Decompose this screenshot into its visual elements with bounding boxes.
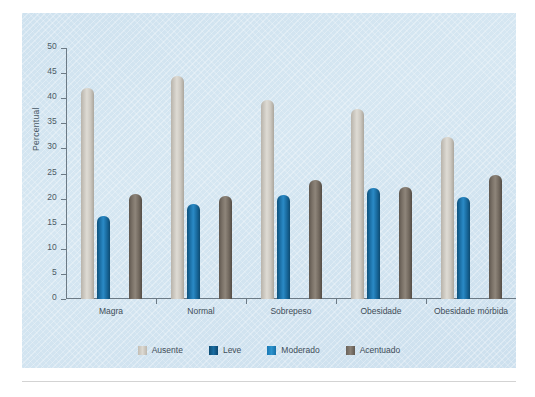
bar [97,216,110,299]
legend-label: Ausente [152,345,183,355]
bar-group: Magra [66,35,156,299]
bar [129,194,142,299]
legend-swatch-icon [267,346,276,355]
bar-group: Obesidade [336,35,426,299]
y-axis-tick-label: 20 [47,192,57,202]
legend-swatch-icon [138,346,147,355]
bar [293,223,306,299]
chart-panel: Percentual 05101520253035404550 MagraNor… [22,13,516,368]
legend-swatch-icon [209,346,218,355]
x-axis-tick [156,299,157,304]
bar [219,196,232,299]
y-axis-tick-label: 5 [52,267,57,277]
bar [113,200,126,299]
legend-item[interactable]: Leve [209,345,241,355]
y-axis-tick-label: 50 [47,41,57,51]
bottom-divider [22,381,516,382]
bar [457,197,470,299]
y-axis-tick-label: 45 [47,66,57,76]
bar [261,100,274,299]
y-axis-tick-label: 40 [47,91,57,101]
bar-group: Normal [156,35,246,299]
legend-label: Moderado [281,345,319,355]
bar [277,195,290,299]
figure: Percentual 05101520253035404550 MagraNor… [0,0,535,397]
bar [81,88,94,299]
bar-group: Sobrepeso [246,35,336,299]
bar [399,187,412,299]
y-axis-title: Percentual [31,107,41,151]
legend-item[interactable]: Moderado [267,345,319,355]
bar [473,192,486,299]
bar [203,223,216,299]
y-axis-tick-label: 0 [52,292,57,302]
y-axis-tick-label: 10 [47,242,57,252]
bar-group: Obesidade mórbida [426,35,516,299]
legend-label: Acentuado [360,345,401,355]
bar [441,137,454,299]
legend-label: Leve [223,345,241,355]
y-axis-tick-label: 35 [47,116,57,126]
x-axis-tick [336,299,337,304]
plot-area: 05101520253035404550 MagraNormalSobrepes… [66,35,516,299]
x-axis-tick [426,299,427,304]
x-axis-category-label: Obesidade mórbida [401,306,535,316]
bar [171,76,184,299]
bar [489,175,502,299]
y-axis-tick-label: 25 [47,167,57,177]
x-axis-tick [246,299,247,304]
y-axis-tick-label: 30 [47,141,57,151]
chart-legend: AusenteLeveModeradoAcentuado [22,345,516,355]
y-axis-tick: 0 [61,299,66,300]
legend-item[interactable]: Ausente [138,345,183,355]
legend-item[interactable]: Acentuado [346,345,401,355]
bar [367,188,380,299]
y-axis-tick-label: 15 [47,217,57,227]
bar [383,215,396,299]
legend-swatch-icon [346,346,355,355]
bar [187,204,200,299]
bar [309,180,322,299]
bar [351,109,364,299]
